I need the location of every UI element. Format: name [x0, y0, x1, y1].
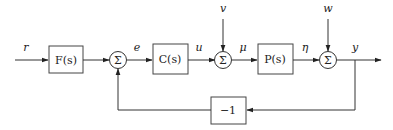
block-feedback-gain: −1 [211, 97, 246, 124]
label-u: u [195, 41, 202, 54]
sum3-symbol: Σ [324, 54, 332, 67]
summing-junction-3: Σ [320, 52, 337, 69]
label-mu: μ [239, 41, 246, 54]
block-P: P(s) [258, 44, 293, 74]
summing-junction-2: Σ [215, 52, 232, 69]
block-P-label: P(s) [264, 53, 286, 66]
label-w: w [323, 2, 333, 15]
block-diagram: r F(s) Σ e C(s) u v Σ μ P(s) η w [0, 0, 393, 130]
label-e: e [134, 41, 141, 54]
block-C-label: C(s) [159, 53, 182, 66]
label-y: y [351, 41, 359, 54]
block-C: C(s) [153, 44, 188, 74]
block-F: F(s) [49, 46, 83, 73]
sum2-symbol: Σ [219, 54, 227, 67]
wire-feedback-left [118, 69, 211, 110]
label-v: v [220, 2, 227, 15]
label-r: r [23, 41, 29, 54]
block-feedback-label: −1 [220, 104, 236, 117]
label-eta: η [302, 41, 309, 54]
sum1-symbol: Σ [114, 54, 122, 67]
block-F-label: F(s) [55, 54, 77, 67]
summing-junction-1: Σ [110, 52, 127, 69]
